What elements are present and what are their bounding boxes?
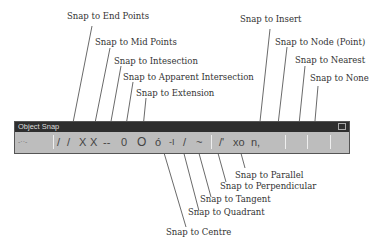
snap-node-button[interactable]: /' — [219, 135, 224, 149]
label-tangent: Snap to Tangent — [200, 194, 271, 204]
snap-quadrant-button[interactable]: ó — [155, 135, 161, 149]
snap-intersection-button[interactable]: X — [79, 135, 86, 149]
snap-nearest-button[interactable]: xo — [233, 135, 245, 149]
toolbar-title: Object Snap — [18, 122, 59, 132]
snap-perpendicular-button[interactable]: / — [183, 135, 186, 149]
label-mid-points: Snap to Mid Points — [95, 37, 177, 47]
label-parallel: Snap to Parallel — [235, 170, 303, 180]
close-icon[interactable] — [338, 123, 346, 130]
snap-tangent-button[interactable]: -I — [169, 135, 175, 149]
label-end-points: Snap to End Points — [67, 11, 149, 21]
toolbar-buttons: -··- / / X X -- 0 O ó -I / ~ /' xo n, — [15, 132, 349, 153]
snap-end-points-button[interactable]: / — [57, 135, 60, 149]
snap-none-button[interactable]: n, — [251, 135, 260, 149]
label-insert: Snap to Insert — [240, 14, 301, 24]
label-intersection: Snap to Intesection — [114, 56, 198, 66]
snap-parallel-button[interactable]: ~ — [196, 135, 202, 149]
object-snap-toolbar: Object Snap -··- / / X X -- 0 O ó -I / ~… — [14, 121, 350, 154]
label-node: Snap to Node (Point) — [275, 37, 365, 47]
label-centre: Snap to Centre — [166, 227, 231, 237]
snap-centre-button[interactable]: O — [137, 135, 146, 149]
label-quadrant: Snap to Quadrant — [188, 207, 265, 217]
grip-icon: -··- — [18, 135, 27, 149]
label-apparent-intersection: Snap to Apparent Intersection — [123, 72, 254, 82]
label-extension: Snap to Extension — [136, 88, 214, 98]
label-none: Snap to None — [310, 73, 369, 83]
snap-apparent-intersection-button[interactable]: X — [90, 135, 97, 149]
snap-mid-points-button[interactable]: / — [67, 135, 70, 149]
label-nearest: Snap to Nearest — [295, 55, 365, 65]
toolbar-titlebar[interactable]: Object Snap — [15, 122, 349, 132]
snap-extension-button[interactable]: -- — [103, 135, 110, 149]
snap-insert-button[interactable]: 0 — [121, 135, 127, 149]
label-perpendicular: Snap to Perpendicular — [220, 181, 316, 191]
